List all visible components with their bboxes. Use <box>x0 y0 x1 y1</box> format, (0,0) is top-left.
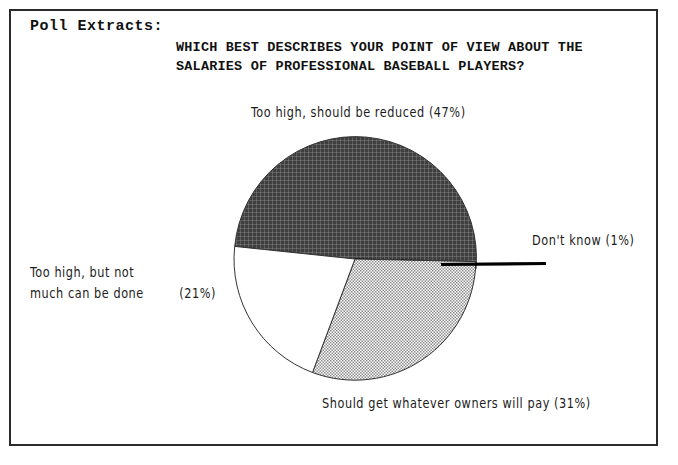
slice-label-not-much-can-be-done: Too high, but not much can be done(21%) <box>30 262 216 304</box>
slice-label-too-high-reduced: Too high, should be reduced (47%) <box>251 104 466 120</box>
poll-extract-figure: Poll Extracts: WHICH BEST DESCRIBES YOUR… <box>0 0 678 465</box>
chart-question-title: WHICH BEST DESCRIBES YOUR POINT OF VIEW … <box>176 38 606 76</box>
question-line-1: WHICH BEST DESCRIBES YOUR POINT OF VIEW … <box>176 38 606 57</box>
slice-label-text: much can be done <box>30 285 144 301</box>
slice-label-line-2: much can be done(21%) <box>30 283 216 304</box>
slice-label-percent: (21%) <box>179 283 216 304</box>
slice-label-whatever-owners-pay: Should get whatever owners will pay (31%… <box>322 395 591 411</box>
slice-label-line-1: Too high, but not <box>30 262 216 283</box>
section-label: Poll Extracts: <box>30 18 163 35</box>
question-line-2: SALARIES OF PROFESSIONAL BASEBALL PLAYER… <box>176 57 606 76</box>
slice-label-dont-know: Don't know (1%) <box>532 232 634 248</box>
